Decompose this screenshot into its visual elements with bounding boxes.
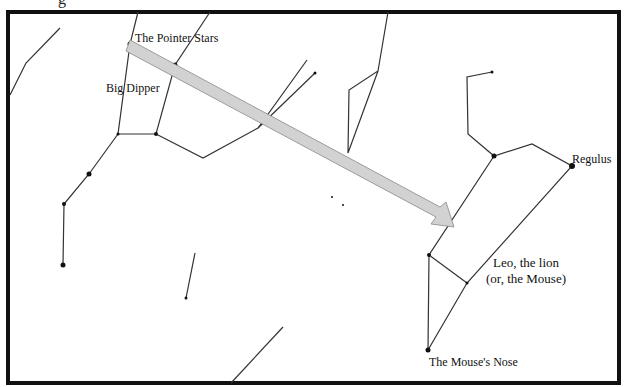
pointer-arrow [126, 40, 454, 227]
label-leo-line2: (or, the Mouse) [486, 271, 566, 287]
label-big-dipper: Big Dipper [106, 81, 160, 95]
label-pointer-stars: The Pointer Stars [135, 31, 218, 45]
label-regulus: Regulus [572, 152, 611, 166]
chart-border [8, 12, 619, 383]
constellation-lines [10, 12, 572, 383]
cutoff-caption: g [58, 0, 66, 8]
constellation-svg [0, 0, 625, 387]
label-leo-line1: Leo, the lion [486, 255, 566, 271]
label-leo: Leo, the lion (or, the Mouse) [486, 255, 566, 287]
star-chart: g [0, 0, 625, 387]
label-mouse-nose: The Mouse's Nose [429, 355, 518, 369]
